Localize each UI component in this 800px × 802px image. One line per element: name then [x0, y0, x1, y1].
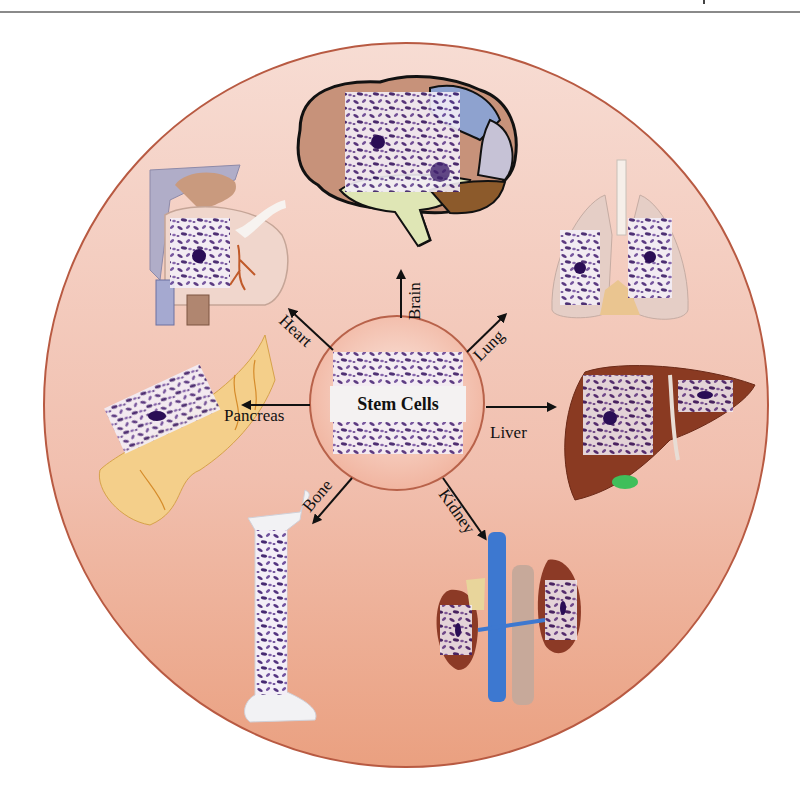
- label-brain: Brain: [405, 282, 424, 320]
- stem-cells-label: Stem Cells: [357, 394, 438, 414]
- stem-cells-node: Stem Cells: [310, 316, 484, 490]
- label-pancreas: Pancreas: [224, 406, 284, 425]
- label-liver: Liver: [490, 423, 527, 442]
- stem-cell-diagram: Stem Cells Brain Lung Liver Kidney Bone …: [0, 0, 800, 802]
